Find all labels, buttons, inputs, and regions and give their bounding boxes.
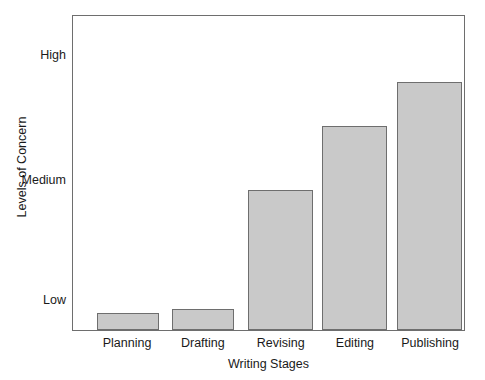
bar-planning [97, 313, 159, 330]
bars-layer [73, 16, 464, 330]
plot-area [72, 15, 465, 331]
bar-editing [322, 126, 388, 330]
y-tick-medium: Medium [4, 173, 66, 187]
x-axis-title: Writing Stages [72, 357, 465, 372]
bar-revising [248, 190, 313, 330]
y-tick-low: Low [4, 293, 66, 307]
y-tick-high: High [4, 48, 66, 62]
bar-chart: Levels of Concern LowMediumHigh Planning… [0, 0, 485, 380]
x-tick-publishing: Publishing [370, 336, 485, 351]
y-axis-tick-labels: LowMediumHigh [0, 15, 66, 331]
bar-drafting [172, 309, 234, 330]
bar-publishing [397, 82, 462, 330]
x-axis-tick-labels: PlanningDraftingRevisingEditingPublishin… [72, 336, 465, 354]
